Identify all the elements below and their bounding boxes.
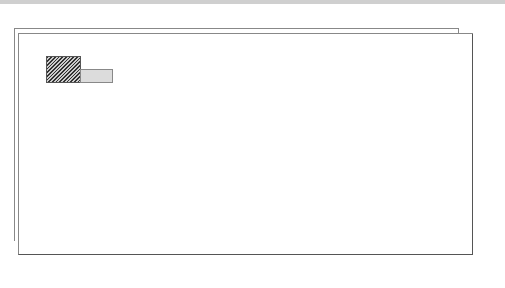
y-axis [472,34,473,254]
legend-females-swatch [80,69,113,83]
top-strip [0,0,505,4]
plot-area [18,33,473,255]
legend-males-swatch [46,56,81,83]
